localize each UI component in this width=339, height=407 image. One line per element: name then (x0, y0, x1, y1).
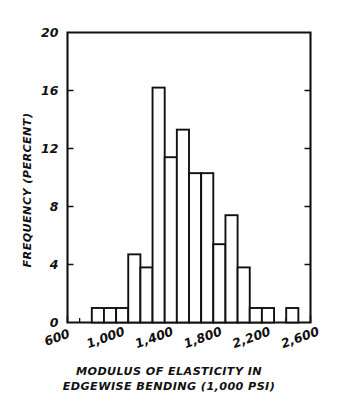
histogram-bar (262, 308, 274, 323)
modulus-of-elasticity-histogram: 048121620 6001,0001,4001,8002,2002,600 M… (0, 0, 339, 407)
histogram-bar (238, 267, 250, 322)
x-axis-title-line1: MODULUS OF ELASTICITY IN (76, 365, 262, 378)
histogram-bar (140, 267, 152, 322)
histogram-bar (104, 308, 116, 323)
y-tick-label: 20 (41, 25, 59, 40)
y-tick-label: 12 (41, 141, 58, 156)
histogram-bar (177, 130, 189, 323)
histogram-bar (153, 88, 165, 323)
y-axis-title: FREQUENCY (PERCENT) (21, 113, 34, 268)
histogram-bar (165, 157, 177, 322)
histogram-figure: 048121620 6001,0001,4001,8002,2002,600 M… (0, 0, 339, 407)
y-tick-label: 0 (50, 315, 59, 330)
histogram-bar (286, 308, 298, 323)
histogram-bar (92, 308, 104, 323)
histogram-bar (225, 215, 237, 322)
histogram-bar (213, 244, 225, 322)
histogram-bar (201, 173, 213, 322)
y-tick-label: 8 (50, 199, 59, 214)
histogram-bar (250, 308, 262, 323)
y-tick-label: 16 (41, 83, 59, 98)
histogram-bar (116, 308, 128, 323)
y-tick-label: 4 (49, 257, 59, 272)
histogram-bar (128, 254, 140, 322)
x-axis-title-line2: EDGEWISE BENDING (1,000 PSI) (63, 380, 275, 393)
histogram-bar (189, 173, 201, 322)
